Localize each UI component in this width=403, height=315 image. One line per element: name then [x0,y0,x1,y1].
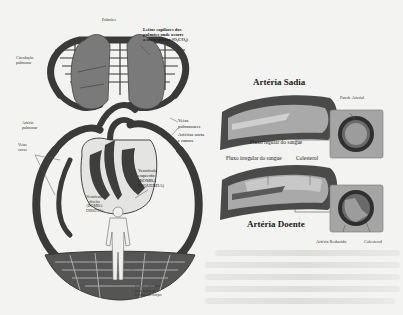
label-arterial-wall: Parede Arterial [340,96,364,101]
label-cholesterol: Colesterol [296,155,318,161]
label-pulmonary-artery: Artéria pulmonar [22,121,37,130]
left-lung [71,35,110,109]
healthy-artery-title: Artéria Sadia [253,77,305,87]
label-regular-flow: Fluxo regular do sangue [250,139,302,145]
right-lung [127,35,165,109]
label-lung-capillaries: Leitos capilares dos pulmões onde ocorre… [143,27,188,43]
label-lungs: Pulmões [102,18,116,23]
label-left-ventricle: Ventrículo esquerdo (BOMBA ESQUERDA) [138,168,164,188]
label-irregular-flow: Fluxo irregular do sangue [226,155,282,161]
label-cholesterol-2: Colesterol [364,240,382,245]
label-pulmonary-circulation: Circulação pulmonar [16,56,33,65]
label-pulmonary-veins: Veias pulmonares [178,118,200,130]
label-body-capillaries: Leitos capilares para todos os tecidos d… [135,284,161,298]
healthy-artery-illustration [220,95,383,158]
circulatory-system-illustration [0,0,403,315]
label-vena-cava: Veias cavas [18,143,27,152]
diseased-artery-title: Artéria Doente [247,219,305,229]
label-right-ventricle: Ventrículo direito (BOMBA DIREITA) [86,195,103,213]
label-reduced-artery: Artéria Reduzida [316,240,346,245]
label-aorta: Artérias aorta e ramos [178,132,204,144]
